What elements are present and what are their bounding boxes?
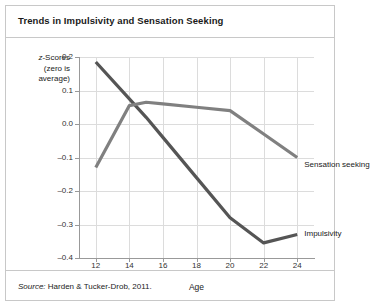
plot-canvas: ImpulsivitySensation seeking 0.20.10.0–0… — [79, 57, 314, 258]
y-axis-title-line2: (zero is — [44, 64, 70, 73]
series-label-impulsivity: Impulsivity — [304, 229, 341, 238]
x-tick-label: 16 — [148, 262, 178, 270]
title-divider — [6, 37, 334, 38]
figure-panel: Trends in Impulsivity and Sensation Seek… — [5, 5, 335, 301]
y-axis-title-line3: average) — [38, 74, 70, 83]
x-tick-label: 14 — [114, 262, 144, 270]
y-tick-label: –0.1 — [57, 154, 73, 162]
source-label: Source: — [18, 282, 46, 291]
x-tick-label: 20 — [215, 262, 245, 270]
x-tick-label: 12 — [81, 262, 111, 270]
y-tick-label: 0.0 — [62, 120, 73, 128]
series-line-impulsivity — [96, 62, 297, 243]
y-tick-label: –0.3 — [57, 221, 73, 229]
y-tick-label: –0.4 — [57, 254, 73, 262]
x-tick-label: 18 — [182, 262, 212, 270]
y-tick-label: 0.2 — [62, 53, 73, 61]
x-tick-label: 22 — [249, 262, 279, 270]
plot-area-wrapper: z-Scores (zero is average) ImpulsivitySe… — [6, 39, 334, 269]
y-tick-label: –0.2 — [57, 187, 73, 195]
source-note: Source: Harden & Tucker-Drob, 2011. — [18, 282, 152, 291]
y-tick-label: 0.1 — [62, 87, 73, 95]
source-text: Harden & Tucker-Drob, 2011. — [48, 282, 152, 291]
series-line-sensation-seeking — [96, 102, 297, 167]
series-lines — [79, 57, 314, 258]
series-label-sensation-seeking: Sensation seeking — [304, 160, 369, 169]
footer-divider — [6, 270, 334, 271]
x-tick-label: 24 — [282, 262, 312, 270]
page-title: Trends in Impulsivity and Sensation Seek… — [18, 15, 223, 26]
y-tick-mark — [75, 258, 79, 259]
